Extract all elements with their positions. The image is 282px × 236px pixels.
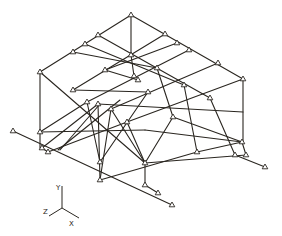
frame-member (73, 52, 157, 68)
frame-member (100, 92, 148, 162)
frame-member (131, 15, 243, 79)
joint-triangle-icon (170, 114, 176, 119)
joint-triangle-icon (215, 60, 221, 65)
structural-diagram: Y Z X (0, 0, 282, 236)
frame-member (100, 109, 111, 180)
frame-nodes (10, 12, 268, 207)
frame-member (145, 155, 246, 163)
joint-triangle-icon (95, 101, 101, 106)
frame-member (40, 130, 145, 132)
z-axis-label: Z (43, 208, 48, 216)
space-frame-drawing: Y Z X (0, 0, 282, 236)
joint-triangle-icon (82, 41, 88, 46)
frame-member (197, 142, 242, 152)
joint-triangle-icon (232, 152, 238, 157)
x-axis-line (62, 208, 79, 218)
frame-member (111, 63, 218, 109)
joint-triangle-icon (10, 128, 16, 133)
y-axis-label: Y (55, 184, 61, 192)
axis-triad: Y Z X (43, 184, 79, 228)
joint-triangle-icon (128, 12, 134, 17)
frame-member (131, 55, 134, 76)
frame-member (127, 122, 145, 163)
frame-member (13, 131, 172, 205)
joint-triangle-icon (142, 182, 148, 187)
frame-member (235, 155, 265, 167)
frame-member (184, 85, 197, 152)
z-axis-line (49, 208, 62, 216)
joint-triangle-icon (243, 152, 249, 157)
x-axis-label: X (69, 220, 74, 228)
joint-triangle-icon (131, 73, 137, 78)
frame-members (13, 15, 265, 205)
frame-member (98, 104, 100, 180)
frame-member (145, 117, 173, 163)
